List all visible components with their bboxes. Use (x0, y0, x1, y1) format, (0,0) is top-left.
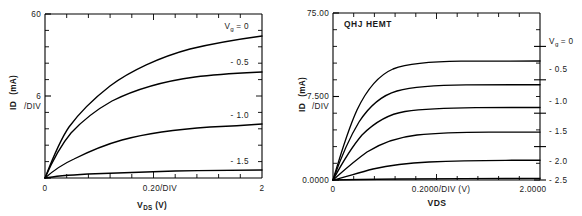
curve-label-left-c2: - 0.5 (231, 58, 249, 67)
panel-title-right: QHJ HEMT (344, 19, 392, 29)
curve-left-vg-0p5 (45, 72, 262, 178)
y-tick-label-mid-div-right: /DIV (312, 102, 329, 111)
plot-frame-left (45, 14, 262, 178)
chart-panel-left: 60 6 /DIV ID (mA) 0 0.20/DIV 2 VDS(V) Vg… (0, 0, 291, 216)
y-axis-ticks-right-left-panel (256, 30, 262, 161)
curve-right-vg-1p5 (333, 132, 540, 180)
y-axis-title-main-right: ID (297, 103, 307, 112)
curve-label-left-vg0-sub: g (230, 25, 234, 32)
y-tick-label-top-left: 60 (31, 10, 41, 19)
curve-label-left-c4: - 1.5 (231, 157, 249, 166)
x-axis-title-left: VDS(V) (137, 200, 167, 211)
y-axis-title-left: ID (mA) (8, 75, 18, 110)
x-tick-label-left-left: 0 (43, 184, 48, 193)
curve-label-right-c6: - 2.5 (549, 176, 567, 185)
svg-text:ID (mA): ID (mA) (297, 77, 307, 112)
curve-right-vg-1p0 (333, 108, 540, 181)
curve-label-left-vg0: Vg= 0 (224, 22, 249, 32)
y-tick-label-bottom-right: 0.0000 (302, 176, 329, 185)
x-tick-label-mid-right: 0.2000/DIV (V) (412, 185, 470, 194)
curve-label-right-c3: - 1.0 (549, 97, 567, 106)
chart-panel-right: QHJ HEMT 75.00 7.500 /DIV 0.0000 ID (mA)… (291, 0, 582, 216)
y-axis-ticks-right-panel (333, 13, 339, 180)
x-tick-label-mid-left: 0.20/DIV (143, 184, 177, 193)
x-axis-title-sub-left: DS (143, 204, 153, 211)
y-axis-ticks-left (45, 14, 51, 178)
x-axis-title-right: VDS (428, 198, 447, 208)
x-tick-label-right-left: 2 (260, 184, 265, 193)
curve-label-right-vg0-sub: g (555, 40, 559, 47)
x-axis-ticks-top-left-panel (67, 14, 241, 20)
y-tick-label-mid-div-left: /DIV (24, 102, 41, 111)
y-axis-title-unit-left: (mA) (9, 75, 18, 95)
curve-label-right-c5: - 2.0 (549, 157, 567, 166)
y-axis-title-right: ID (mA) (297, 77, 307, 112)
y-tick-label-mid-right: 7.500 (307, 92, 329, 101)
x-axis-ticks-left (67, 172, 241, 178)
x-tick-label-left-right: 0 (331, 185, 336, 194)
y-axis-title-main-left: ID (8, 101, 18, 110)
y-tick-label-mid-left: 6 (36, 92, 41, 101)
curve-label-right-vg0-rest: = 0 (561, 37, 574, 46)
svg-text:ID (mA): ID (mA) (8, 75, 18, 110)
curve-label-right-c4: - 1.5 (549, 127, 567, 136)
y-tick-label-top-right: 75.00 (307, 9, 329, 18)
x-tick-label-right-right: 2.0000 (520, 185, 547, 194)
y-axis-title-unit-right: (mA) (298, 77, 307, 97)
curve-label-left-c3: - 1.0 (231, 111, 249, 120)
x-axis-title-unit-left: (V) (155, 201, 167, 210)
curve-label-right-vg0: Vg= 0 (549, 37, 574, 47)
curve-label-right-c2: - 0.5 (549, 65, 567, 74)
curve-label-left-vg0-rest: = 0 (236, 22, 249, 31)
figure-container: 60 6 /DIV ID (mA) 0 0.20/DIV 2 VDS(V) Vg… (0, 0, 582, 216)
